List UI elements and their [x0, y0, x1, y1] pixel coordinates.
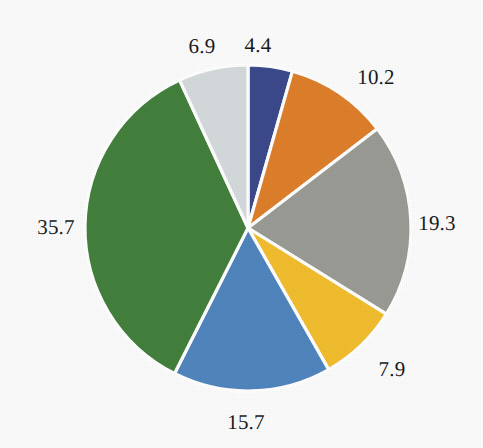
pie-slice-label-4.4: 4.4	[245, 33, 272, 58]
pie-slice-label-35.7: 35.7	[37, 215, 75, 240]
pie-slice-label-15.7: 15.7	[227, 410, 265, 435]
pie-chart: 4.410.219.37.915.735.76.9	[0, 0, 483, 448]
pie-slice-label-10.2: 10.2	[357, 65, 395, 90]
pie-slice-label-6.9: 6.9	[189, 34, 216, 59]
pie-slice-label-7.9: 7.9	[379, 357, 406, 382]
pie-slice-label-19.3: 19.3	[418, 211, 456, 236]
